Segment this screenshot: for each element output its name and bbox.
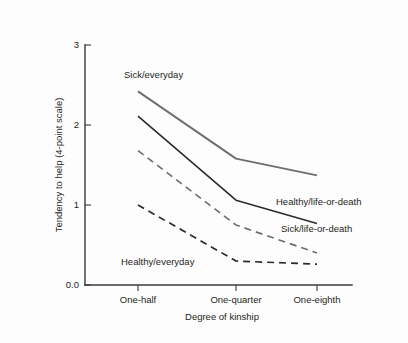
x-tick-marks [138,285,317,291]
x-tick-label-one-quarter: One-quarter [210,294,261,305]
y-tick-label-0: 0.0 [66,279,79,290]
line-chart-plot: 3 2 1 0.0 One-half One-quarter One-eight… [0,0,408,343]
axes-group [85,45,352,285]
series-labels-group: Sick/everydayHealthy/life-or-deathSick/l… [121,69,362,267]
series-lines-group [138,91,317,264]
x-tick-label-one-eighth: One-eighth [293,294,340,305]
chart-figure: 3 2 1 0.0 One-half One-quarter One-eight… [0,0,408,343]
y-axis-title: Tendency to help (4-point scale) [53,98,64,233]
x-tick-label-one-half: One-half [120,294,157,305]
series-label-3: Healthy/everyday [121,256,195,267]
series-label-2: Sick/life-or-death [281,223,352,234]
x-axis-title: Degree of kinship [185,311,259,322]
series-label-1: Healthy/life-or-death [276,196,362,207]
y-tick-marks [85,45,91,285]
y-tick-label-2: 2 [74,119,79,130]
y-tick-labels: 3 2 1 0.0 [66,39,79,290]
y-tick-label-1: 1 [74,199,79,210]
series-line-0 [138,91,317,175]
series-label-0: Sick/everyday [124,69,183,80]
y-tick-label-3: 3 [74,39,79,50]
x-tick-labels: One-half One-quarter One-eighth [120,294,341,305]
